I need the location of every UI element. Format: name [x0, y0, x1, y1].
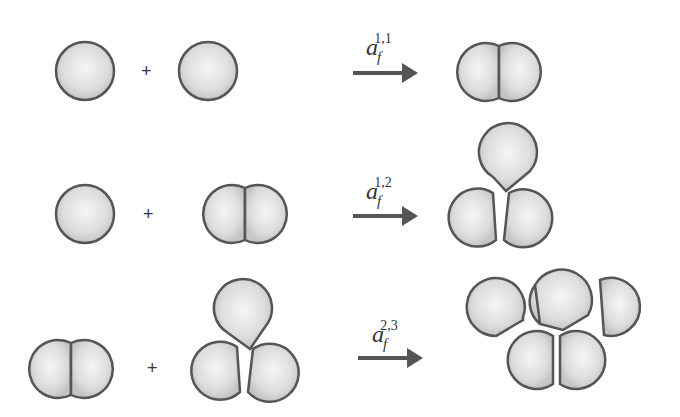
rate-superscript: 1,1 [374, 31, 392, 46]
reaction-3 [29, 270, 640, 402]
reaction-1 [56, 42, 541, 101]
rate-label-2: af1,2 [366, 178, 400, 205]
trimer-reactant [191, 279, 298, 402]
dimer-reactant [29, 340, 113, 398]
pentamer-product [467, 270, 640, 389]
reaction-2 [56, 123, 552, 247]
trimer-product [449, 123, 553, 247]
plus-sign: + [147, 358, 158, 379]
rate-subscript: f [377, 193, 381, 209]
rate-label-1: af1,1 [366, 34, 400, 61]
rate-subscript: f [377, 49, 381, 65]
plus-sign: + [143, 204, 154, 225]
rate-superscript: 1,2 [374, 175, 392, 190]
rate-label-3: af2,3 [372, 321, 406, 348]
plus-sign: + [141, 61, 152, 82]
dimer-reactant [203, 185, 287, 243]
arrow-3 [358, 348, 423, 368]
monomer-particle [179, 42, 237, 100]
monomer-particle [56, 42, 114, 100]
arrow-1 [353, 63, 418, 83]
aggregation-diagram [0, 0, 680, 417]
arrow-2 [353, 206, 418, 226]
rate-superscript: 2,3 [380, 318, 398, 333]
monomer-particle [56, 185, 114, 243]
rate-subscript: f [383, 336, 387, 352]
dimer-product [457, 43, 541, 101]
